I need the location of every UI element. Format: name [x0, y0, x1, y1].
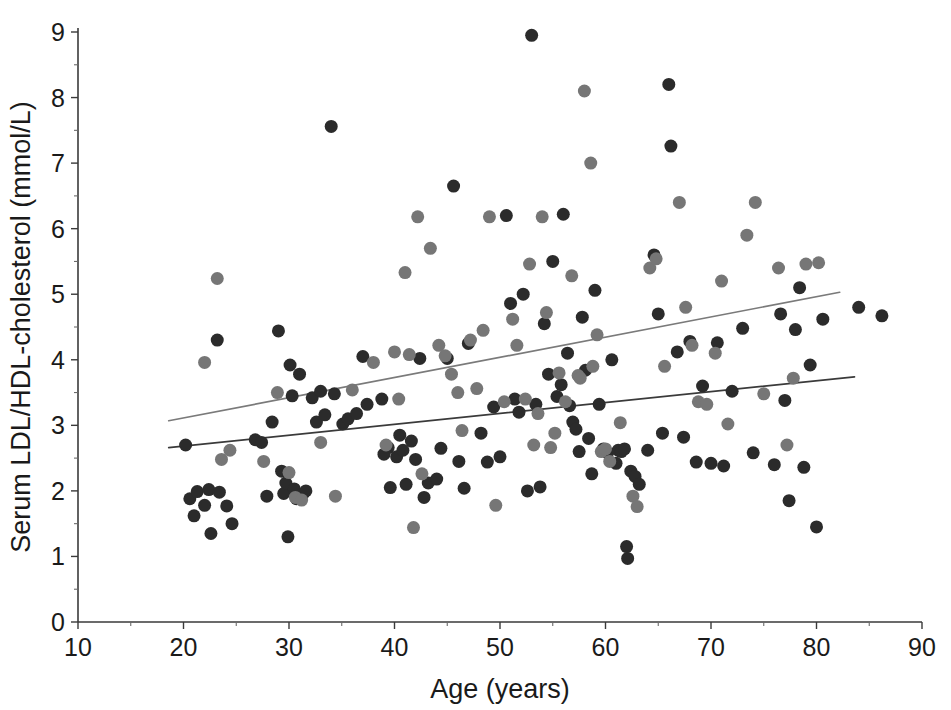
data-point-s1-21: [424, 242, 437, 255]
data-point-s0-56: [458, 482, 471, 495]
data-point-s1-60: [658, 360, 671, 373]
data-point-s0-85: [585, 467, 598, 480]
data-point-s0-102: [652, 307, 665, 320]
data-point-s0-68: [525, 29, 538, 42]
data-point-s1-65: [700, 398, 713, 411]
x-tick-label-70: 70: [697, 633, 725, 661]
data-point-s0-49: [418, 491, 431, 504]
data-point-s0-71: [538, 317, 551, 330]
data-point-s0-41: [384, 481, 397, 494]
x-tick-label-50: 50: [486, 633, 514, 661]
data-point-s1-62: [679, 301, 692, 314]
data-point-s1-63: [686, 339, 699, 352]
data-point-s1-42: [548, 427, 561, 440]
data-point-s0-120: [783, 494, 796, 507]
data-point-s1-14: [388, 345, 401, 358]
data-point-s0-20: [284, 359, 297, 372]
y-tick-label-0: 0: [51, 608, 65, 636]
data-point-s0-103: [656, 427, 669, 440]
data-point-s1-0: [198, 356, 211, 369]
data-point-s0-94: [618, 442, 631, 455]
plot-background: [0, 0, 951, 710]
data-point-s0-117: [768, 458, 781, 471]
data-point-s0-55: [452, 455, 465, 468]
data-point-s0-86: [588, 284, 601, 297]
data-point-s0-126: [816, 313, 829, 326]
data-point-s1-11: [346, 383, 359, 396]
data-point-s1-35: [519, 393, 532, 406]
data-point-s1-17: [403, 348, 416, 361]
data-point-s0-46: [405, 435, 418, 448]
data-point-s0-30: [318, 408, 331, 421]
y-axis-title: Serum LDL/HDL-cholesterol (mmol/L): [6, 101, 36, 553]
data-point-s0-35: [350, 407, 363, 420]
data-point-s1-71: [757, 387, 770, 400]
data-point-s0-106: [671, 345, 684, 358]
data-point-s0-80: [569, 423, 582, 436]
data-point-s1-61: [673, 196, 686, 209]
data-point-s1-37: [527, 439, 540, 452]
data-point-s1-12: [367, 356, 380, 369]
data-point-s0-31: [325, 120, 338, 133]
data-point-s1-43: [553, 366, 566, 379]
data-point-s0-96: [621, 552, 634, 565]
y-tick-label-9: 9: [51, 18, 65, 46]
data-point-s1-66: [709, 347, 722, 360]
data-point-s0-125: [810, 520, 823, 533]
x-axis-title: Age (years): [430, 674, 570, 704]
data-point-s0-105: [664, 140, 677, 153]
data-point-s0-62: [500, 209, 513, 222]
data-point-s1-48: [578, 85, 591, 98]
data-point-s1-39: [536, 210, 549, 223]
data-point-s1-16: [399, 266, 412, 279]
data-point-s1-4: [257, 455, 270, 468]
data-point-s1-70: [749, 196, 762, 209]
data-point-s0-4: [198, 499, 211, 512]
data-point-s0-99: [633, 478, 646, 491]
data-point-s0-124: [804, 359, 817, 372]
data-point-s0-128: [875, 309, 888, 322]
data-point-s0-12: [255, 436, 268, 449]
data-point-s1-67: [715, 275, 728, 288]
data-point-s0-15: [272, 324, 285, 337]
y-tick-label-4: 4: [51, 346, 65, 374]
y-tick-label-5: 5: [51, 280, 65, 308]
data-point-s0-51: [430, 473, 443, 486]
data-point-s1-47: [574, 372, 587, 385]
data-point-s0-121: [789, 323, 802, 336]
data-point-s0-54: [447, 180, 460, 193]
x-tick-label-30: 30: [275, 633, 303, 661]
data-point-s0-76: [557, 208, 570, 221]
y-tick-label-6: 6: [51, 215, 65, 243]
data-point-s1-57: [631, 500, 644, 513]
data-point-s1-69: [740, 229, 753, 242]
data-point-s1-10: [329, 490, 342, 503]
data-point-s1-27: [464, 334, 477, 347]
data-point-s1-68: [721, 418, 734, 431]
data-point-s0-123: [797, 461, 810, 474]
data-point-s0-6: [204, 527, 217, 540]
data-point-s1-28: [470, 382, 483, 395]
data-point-s0-82: [576, 311, 589, 324]
data-point-s1-72: [772, 262, 785, 275]
data-point-s1-31: [489, 499, 502, 512]
data-point-s0-87: [593, 398, 606, 411]
data-point-s1-23: [439, 349, 452, 362]
data-point-s1-51: [591, 328, 604, 341]
data-point-s1-59: [650, 252, 663, 265]
data-point-s1-41: [544, 441, 557, 454]
data-point-s0-119: [778, 394, 791, 407]
data-point-s1-53: [599, 442, 612, 455]
data-point-s1-9: [314, 436, 327, 449]
data-point-s1-49: [584, 157, 597, 170]
data-point-s0-59: [481, 456, 494, 469]
data-point-s1-13: [380, 439, 393, 452]
x-tick-label-20: 20: [170, 633, 198, 661]
data-point-s0-58: [475, 427, 488, 440]
data-point-s0-45: [400, 478, 413, 491]
data-point-s1-25: [451, 386, 464, 399]
data-point-s1-73: [780, 439, 793, 452]
data-point-s1-74: [787, 372, 800, 385]
data-point-s1-8: [295, 494, 308, 507]
data-point-s0-111: [705, 457, 718, 470]
